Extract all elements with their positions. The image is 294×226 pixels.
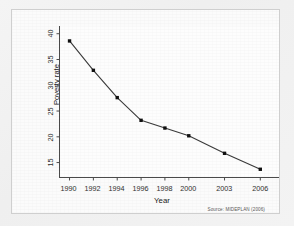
figure-frame: Poverty rate Year 152025303540 199019921… <box>11 9 280 214</box>
data-point-marker <box>259 168 262 171</box>
y-tick-label: 15 <box>46 155 55 171</box>
data-point-marker <box>92 69 95 72</box>
x-tick-label: 1992 <box>80 184 106 193</box>
x-tick-label: 1994 <box>103 184 129 193</box>
data-point-marker <box>116 96 119 99</box>
data-point-marker <box>68 39 71 42</box>
x-axis-label: Year <box>132 196 192 205</box>
x-tick-label: 1996 <box>127 184 153 193</box>
data-point-marker <box>223 152 226 155</box>
plot-area <box>59 26 279 178</box>
line-chart-svg <box>60 26 279 177</box>
data-point-marker <box>187 134 190 137</box>
data-point-marker <box>163 126 166 129</box>
y-tick-label: 35 <box>46 51 55 67</box>
y-tick-label: 40 <box>46 25 55 41</box>
poverty-rate-line <box>70 41 261 169</box>
x-tick-label: 1990 <box>56 184 82 193</box>
source-note: Source: MIDEPLAN (2006) <box>208 207 265 212</box>
figure-root: Poverty rate Year 152025303540 199019921… <box>0 0 294 226</box>
data-point-marker <box>139 119 142 122</box>
x-tick-label: 1998 <box>151 184 177 193</box>
y-tick-label: 25 <box>46 103 55 119</box>
x-tick-label: 2003 <box>211 184 237 193</box>
y-tick-label: 30 <box>46 77 55 93</box>
axis-tick-marks <box>57 34 261 181</box>
y-tick-label: 20 <box>46 129 55 145</box>
data-point-markers <box>68 39 262 171</box>
x-tick-label: 2000 <box>175 184 201 193</box>
x-tick-label: 2006 <box>247 184 273 193</box>
